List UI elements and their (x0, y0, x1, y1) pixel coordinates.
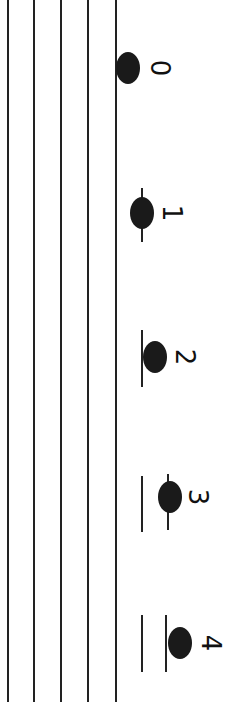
note-label: 2 (172, 349, 198, 366)
note-label: 1 (159, 205, 185, 222)
staff-line-2 (33, 0, 35, 702)
note-head-2 (143, 341, 167, 373)
note-label: 4 (198, 635, 224, 652)
ledger-line (141, 476, 143, 532)
staff-line-3 (60, 0, 62, 702)
note-head-0 (116, 52, 140, 84)
note-label: 3 (185, 489, 211, 506)
staff-line-1 (7, 0, 9, 702)
note-head-4 (168, 627, 192, 659)
ledger-line (165, 615, 167, 672)
note-head-1 (130, 197, 154, 229)
note-head-3 (158, 481, 182, 513)
staff-line-5 (115, 0, 117, 702)
note-label: 0 (147, 60, 173, 77)
staff-line-4 (87, 0, 89, 702)
ledger-line (141, 615, 143, 672)
